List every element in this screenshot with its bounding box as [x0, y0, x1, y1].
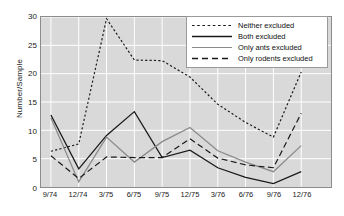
x-tick-label: 6/76: [239, 190, 254, 199]
legend-label: Neither excluded: [238, 21, 294, 30]
x-tick-label: 12/75: [181, 190, 200, 199]
x-tick-label: 12/76: [293, 190, 312, 199]
x-tick-label: 9/75: [155, 190, 170, 199]
legend-swatch-both-excluded: [191, 31, 233, 42]
legend-swatch-only-rodents-excluded: [191, 53, 233, 64]
x-tick-label: 9/76: [267, 190, 282, 199]
x-tick-label: 6/75: [127, 190, 142, 199]
x-tick-label: 3/76: [211, 190, 226, 199]
y-tick-label: 25: [3, 40, 37, 49]
y-axis-tick-labels: 051015202530: [0, 16, 37, 188]
chart-figure: Number/Sample 051015202530 9/7412/743/75…: [0, 0, 344, 216]
y-tick-label: 20: [3, 69, 37, 78]
legend-label: Only ants excluded: [238, 43, 302, 52]
legend-swatch-neither-excluded: [191, 20, 233, 31]
x-tick-label: 12/74: [69, 190, 88, 199]
y-tick-label: 30: [3, 12, 37, 21]
chart-legend: Neither excluded Both excluded Only ants…: [186, 16, 328, 68]
legend-swatch-only-ants-excluded: [191, 42, 233, 53]
legend-item: Only rodents excluded: [191, 53, 323, 64]
legend-item: Neither excluded: [191, 20, 323, 31]
legend-item: Only ants excluded: [191, 42, 323, 53]
legend-label: Only rodents excluded: [238, 54, 313, 63]
y-tick-label: 0: [3, 184, 37, 193]
legend-label: Both excluded: [238, 32, 286, 41]
legend-item: Both excluded: [191, 31, 323, 42]
y-tick-label: 5: [3, 155, 37, 164]
x-axis-tick-labels: 9/7412/743/756/759/7512/753/766/769/7612…: [40, 190, 332, 206]
x-tick-label: 9/74: [43, 190, 58, 199]
x-tick-label: 3/75: [99, 190, 114, 199]
y-tick-label: 15: [3, 98, 37, 107]
y-tick-label: 10: [3, 126, 37, 135]
